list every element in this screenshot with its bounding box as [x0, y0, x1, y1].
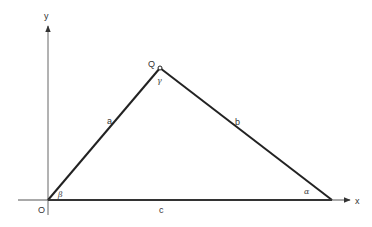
y-axis-label: y: [44, 11, 49, 21]
angle-alpha-label: α: [304, 187, 310, 196]
x-axis-label: x: [355, 196, 360, 206]
angle-beta-label: β: [57, 190, 63, 199]
point-q-marker: [158, 66, 162, 70]
vertex-q-label: Q: [148, 59, 155, 69]
origin-label: O: [38, 205, 45, 215]
side-c-label: c: [159, 205, 164, 215]
angle-gamma-label: γ: [157, 76, 162, 85]
side-b-label: b: [235, 117, 240, 127]
triangle-diagram: y x O Q a b c β γ α: [0, 0, 372, 227]
side-a: [48, 68, 160, 200]
side-b: [160, 68, 332, 200]
side-a-label: a: [107, 116, 112, 126]
